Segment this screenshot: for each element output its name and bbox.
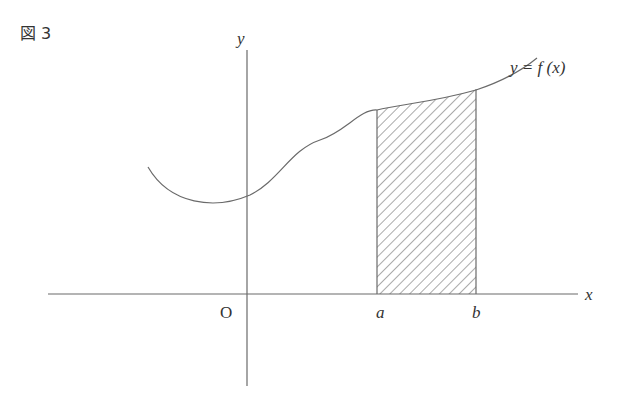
origin-label: O: [220, 303, 232, 322]
point-a-label: a: [376, 303, 385, 322]
curve-f: [148, 58, 537, 203]
y-axis-label: y: [235, 29, 245, 48]
integral-diagram: y x O a b y = f (x): [0, 0, 630, 403]
x-axis-label: x: [584, 285, 593, 304]
point-b-label: b: [472, 303, 481, 322]
hatched-area: [377, 80, 476, 294]
curve-label: y = f (x): [508, 58, 566, 77]
